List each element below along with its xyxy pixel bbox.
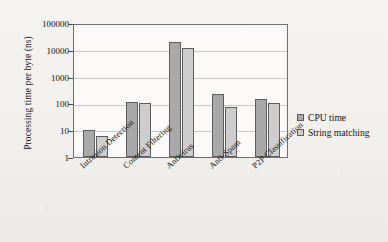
y-axis-title: Processing time per byte (ns) <box>23 18 33 168</box>
chart-legend: CPU time String matching <box>297 110 370 140</box>
chart-figure: Processing time per byte (ns) 100000 100… <box>0 0 388 242</box>
legend-item-string-matching: String matching <box>297 125 370 140</box>
legend-swatch-icon <box>297 129 304 136</box>
legend-label: String matching <box>308 128 370 138</box>
y-tick-label: 10000 <box>23 46 69 56</box>
legend-swatch-icon <box>297 114 304 121</box>
y-tick-mark <box>68 158 73 159</box>
legend-item-cpu-time: CPU time <box>297 110 370 125</box>
y-tick-label: 1000 <box>23 73 69 83</box>
y-tick-label: 10 <box>23 126 69 136</box>
y-tick-label: 100 <box>23 99 69 109</box>
y-tick-label: 100000 <box>23 19 69 29</box>
legend-label: CPU time <box>308 113 346 123</box>
bar-cpu-time <box>169 42 181 157</box>
y-tick-label: 1 <box>23 153 69 163</box>
